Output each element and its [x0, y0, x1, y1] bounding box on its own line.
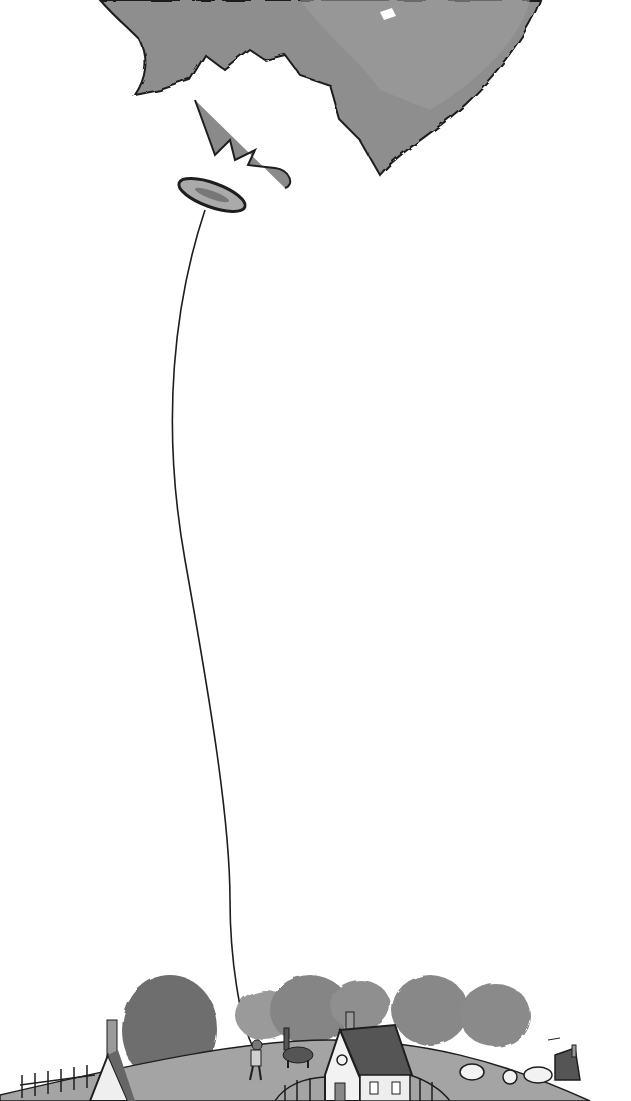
balloon-string — [172, 210, 252, 1045]
balloon-knot — [175, 100, 290, 218]
cottage-right — [548, 1038, 580, 1080]
balloon — [100, 0, 540, 175]
illustration — [0, 0, 631, 1101]
